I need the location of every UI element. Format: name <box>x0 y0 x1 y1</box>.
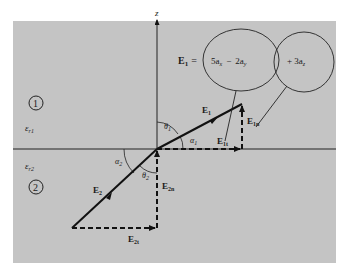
svg-text:2: 2 <box>33 182 38 193</box>
svg-text:5ax−2ay: 5ax−2ay <box>211 56 247 67</box>
svg-text:1: 1 <box>33 98 38 109</box>
z-axis-label: z <box>154 8 159 18</box>
field-boundary-diagram: z 1 εr1 εr2 2 θ1 α1 α2 θ2 E1 E1t E1n E2 … <box>0 0 346 278</box>
